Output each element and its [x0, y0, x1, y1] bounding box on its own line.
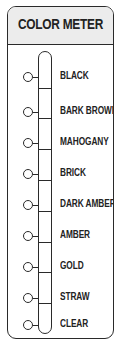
header: COLOR METER — [8, 7, 113, 45]
circle-marker-icon — [23, 262, 33, 272]
tick-line — [33, 143, 39, 144]
level-clear: CLEAR — [8, 316, 113, 336]
color-meter-card: COLOR METER BLACK BARK BROWN MAHOGANY BR… — [7, 6, 114, 339]
circle-marker-icon — [23, 320, 33, 330]
level-bark-brown: BARK BROWN — [8, 103, 113, 123]
level-label: DARK AMBER — [60, 197, 114, 209]
level-amber: AMBER — [8, 227, 113, 247]
level-label: BARK BROWN — [60, 104, 114, 116]
tick-line — [33, 112, 39, 113]
tick-line — [33, 325, 39, 326]
level-gold: GOLD — [8, 258, 113, 278]
circle-marker-icon — [23, 200, 33, 210]
level-dark-amber: DARK AMBER — [8, 196, 113, 216]
tick-line — [33, 174, 39, 175]
tick-line — [33, 267, 39, 268]
circle-marker-icon — [23, 169, 33, 179]
level-mahogany: MAHOGANY — [8, 134, 113, 154]
level-brick: BRICK — [8, 165, 113, 185]
circle-marker-icon — [23, 293, 33, 303]
tick-line — [33, 77, 39, 78]
level-label: AMBER — [60, 228, 90, 240]
level-label: CLEAR — [60, 317, 88, 329]
circle-marker-icon — [23, 231, 33, 241]
level-label: GOLD — [60, 259, 84, 271]
level-straw: STRAW — [8, 289, 113, 309]
tick-line — [33, 298, 39, 299]
level-label: BLACK — [60, 69, 89, 81]
level-black: BLACK — [8, 68, 113, 88]
title: COLOR METER — [17, 16, 103, 32]
level-label: MAHOGANY — [60, 135, 109, 147]
circle-marker-icon — [23, 72, 33, 82]
circle-marker-icon — [23, 107, 33, 117]
level-label: STRAW — [60, 290, 90, 302]
tube-divider — [39, 88, 51, 89]
level-label: BRICK — [60, 166, 86, 178]
tick-line — [33, 236, 39, 237]
tick-line — [33, 205, 39, 206]
circle-marker-icon — [23, 138, 33, 148]
